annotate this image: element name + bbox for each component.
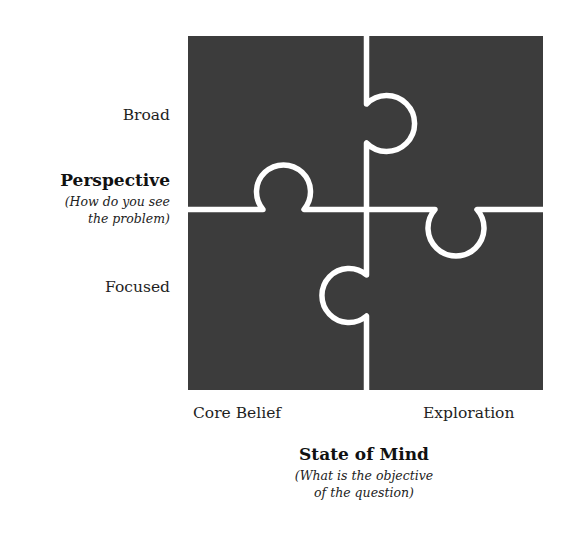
y-axis-title: Perspective [60, 172, 170, 189]
x-axis-title-block: State of Mind (What is the objective of … [295, 446, 433, 501]
x-axis-subtitle-line1: (What is the objective [295, 467, 433, 484]
y-axis-subtitle-line2: the problem) [60, 210, 170, 227]
column-label-exploration: Exploration [423, 404, 514, 422]
x-axis-subtitle-line2: of the question) [295, 484, 433, 501]
row-label-broad: Broad [123, 106, 170, 124]
puzzle-graphic [188, 36, 543, 390]
x-axis-title: State of Mind [295, 446, 433, 463]
column-label-core-belief: Core Belief [193, 404, 281, 422]
row-label-focused: Focused [105, 278, 170, 296]
puzzle-matrix [188, 36, 543, 390]
y-axis-subtitle-line1: (How do you see [60, 193, 170, 210]
y-axis-title-block: Perspective (How do you see the problem) [60, 172, 170, 227]
